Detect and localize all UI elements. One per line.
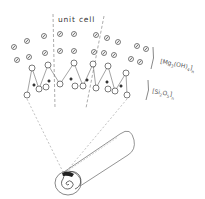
atom-layer [12,32,149,99]
oxygen-atom [80,83,86,89]
unit-cell-left-boundary [53,14,55,108]
oxygen-atom [124,92,130,98]
chrysotile-diagram: unit cell [Mg3(OH)4]n [Si2O5]n [0,0,205,199]
octahedral-bracket [151,47,154,69]
apical-oxygen-atom [123,70,129,76]
silicon-atom [33,84,35,86]
oxygen-atom [72,83,78,89]
oxygen-atom [43,84,49,90]
silicon-atom [86,79,88,81]
oxygen-atom [36,86,42,92]
apical-oxygen-atom [105,63,111,69]
oxygen-atom [57,81,63,87]
oxygen-atom [112,88,118,94]
tetrahedral-layer-label: [Si2O5]n [151,87,175,101]
silicon-atom [106,81,108,83]
silicon-atom [48,80,50,82]
oxygen-atom [105,86,111,92]
unit-cell-label: unit cell [58,15,95,24]
silicon-atom [70,78,72,80]
oxygen-atom [93,85,99,91]
silicon-atom [120,85,122,87]
projection-line-left [27,99,64,174]
svg-text:[Mg3(OH)4]n: [Mg3(OH)4]n [159,57,196,74]
apical-oxygen-atom [71,60,77,66]
svg-text:[Si2O5]n: [Si2O5]n [151,87,175,101]
apical-oxygen-atom [90,61,96,67]
oxygen-atom [24,92,30,98]
octahedral-layer-label: [Mg3(OH)4]n [159,57,196,74]
apical-oxygen-atom [29,65,35,71]
nanotube-fiber [55,131,134,195]
tetrahedral-bracket [146,80,149,100]
apical-oxygen-atom [45,62,51,68]
